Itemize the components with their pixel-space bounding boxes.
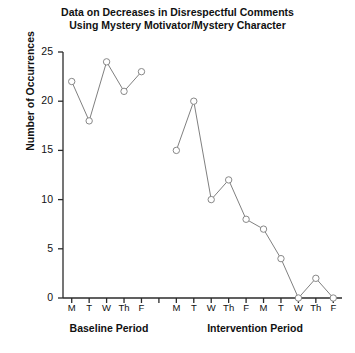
x-axis-tick-label: F: [130, 302, 152, 313]
chart-title: Data on Decreases in Disrespectful Comme…: [0, 6, 355, 32]
y-axis-tick-label: 20: [27, 94, 53, 106]
phase-label-intervention: Intervention Period: [175, 322, 335, 334]
chart-title-line-2: Using Mystery Motivator/Mystery Characte…: [0, 19, 355, 32]
y-axis-tick-label: 0: [27, 291, 53, 303]
y-axis-tick-label: 10: [27, 193, 53, 205]
chart-svg: [63, 52, 342, 298]
y-axis-tick-label: 15: [27, 143, 53, 155]
x-axis-tick-label: F: [322, 302, 344, 313]
chart-container: Data on Decreases in Disrespectful Comme…: [0, 0, 355, 353]
chart-title-line-1: Data on Decreases in Disrespectful Comme…: [0, 6, 355, 19]
y-axis-tick-label: 25: [27, 45, 53, 57]
y-axis-tick-label: 5: [27, 242, 53, 254]
plot-area: [63, 52, 342, 298]
phase-label-baseline: Baseline Period: [48, 322, 170, 334]
